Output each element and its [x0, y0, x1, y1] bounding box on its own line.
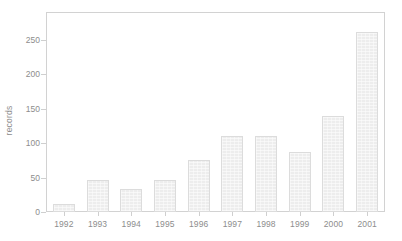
- x-axis-tick-mark: [98, 212, 99, 216]
- y-axis-tick-label: 50: [31, 172, 40, 183]
- y-axis-tick-mark: [41, 178, 46, 179]
- x-axis-tick-label: 1996: [183, 219, 215, 229]
- y-axis-tick-mark: [41, 74, 46, 75]
- bar: [53, 204, 75, 212]
- x-axis-tick-label: 2001: [351, 219, 383, 229]
- x-axis-tick-mark: [199, 212, 200, 216]
- y-axis-tick-label: 250: [26, 34, 40, 45]
- x-axis-tick-label: 1994: [115, 219, 147, 229]
- bars-container: [47, 13, 384, 212]
- x-axis-tick-mark: [300, 212, 301, 216]
- x-axis-tick-label: 2000: [317, 219, 349, 229]
- y-axis-tick-mark: [41, 109, 46, 110]
- y-axis-tick-mark: [41, 143, 46, 144]
- y-axis-tick-label: 0: [35, 207, 40, 218]
- x-axis-tick-label: 1999: [284, 219, 316, 229]
- y-axis-tick-mark: [41, 212, 46, 213]
- x-axis-tick-label: 1992: [48, 219, 80, 229]
- y-axis-tick-label: 150: [26, 103, 40, 114]
- x-axis-tick-label: 1993: [82, 219, 114, 229]
- x-axis-tick-mark: [64, 212, 65, 216]
- bar: [87, 180, 109, 212]
- x-axis-tick-label: 1998: [250, 219, 282, 229]
- x-axis-tick-labels: 1992199319941995199619971998199920002001: [46, 219, 385, 233]
- y-axis-tick-label: 200: [26, 69, 40, 80]
- y-axis-tick-mark: [41, 40, 46, 41]
- bar: [154, 180, 176, 212]
- x-axis-tick-mark: [232, 212, 233, 216]
- bar: [255, 136, 277, 212]
- bar: [356, 32, 378, 212]
- x-axis-tick-mark: [165, 212, 166, 216]
- x-axis-tick-mark: [266, 212, 267, 216]
- bar: [188, 160, 210, 212]
- y-axis-tick-labels: 050100150200250: [0, 0, 40, 241]
- x-axis-tick-label: 1995: [149, 219, 181, 229]
- x-axis-tick-mark: [367, 212, 368, 216]
- x-axis-tick-label: 1997: [216, 219, 248, 229]
- bar: [322, 116, 344, 212]
- x-axis-tick-mark: [333, 212, 334, 216]
- bar-chart: records 050100150200250 1992199319941995…: [0, 0, 402, 241]
- y-axis-tick-label: 100: [26, 138, 40, 149]
- bar: [289, 152, 311, 212]
- bar: [221, 136, 243, 212]
- x-axis-tick-marks: [46, 212, 385, 217]
- bar: [120, 189, 142, 212]
- x-axis-tick-mark: [131, 212, 132, 216]
